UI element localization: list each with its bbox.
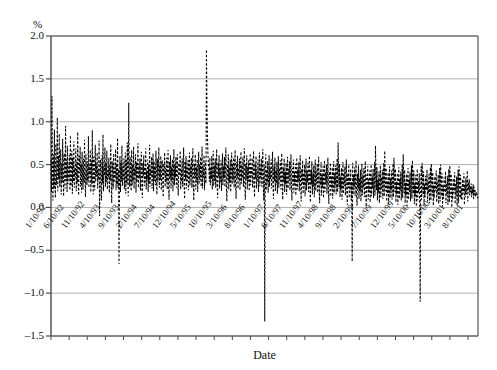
chart-plot-area	[0, 0, 497, 370]
y-axis-tick-label: –0.5	[2, 243, 44, 255]
data-series-line	[51, 50, 478, 322]
y-axis-tick-label: 1.5	[2, 72, 44, 84]
y-axis-tick-label: 0.5	[2, 158, 44, 170]
x-axis-title: Date	[51, 348, 478, 363]
y-axis-tick-label: 2.0	[2, 29, 44, 41]
y-axis-tick-label: 1.0	[2, 115, 44, 127]
y-axis-tick-label: –1.0	[2, 286, 44, 298]
chart-container: % 2.01.51.00.50.0–0.5–1.0–1.5 1/10/926/1…	[0, 0, 497, 370]
y-axis-tick-label: –1.5	[2, 329, 44, 341]
